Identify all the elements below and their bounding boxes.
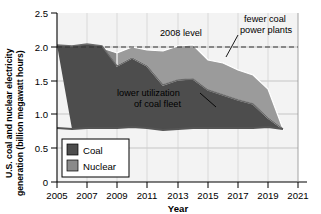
chart-figure: 2.5 2.0 1.5 1.0 0.5 0 2005 2007 2009 201… [0, 0, 321, 214]
area-chart: 2.5 2.0 1.5 1.0 0.5 0 2005 2007 2009 201… [0, 0, 321, 214]
legend: Coal Nuclear [62, 139, 129, 177]
y-axis-title-line2: generation (billion megawatt hours) [15, 50, 25, 196]
ytick-label-0-5: 0.5 [35, 143, 48, 154]
y-axis-ticks [51, 13, 57, 182]
annotation-lower-utilization-line2: of coal fleet [134, 99, 181, 109]
x-axis-ticks [57, 182, 298, 188]
xtick-label-2021: 2021 [287, 190, 308, 201]
annotation-2008-level: 2008 level [160, 28, 202, 38]
legend-swatch-coal[interactable] [67, 144, 78, 155]
ytick-label-1-0: 1.0 [35, 109, 48, 120]
xtick-label-2005: 2005 [46, 190, 67, 201]
legend-label-nuclear[interactable]: Nuclear [83, 161, 117, 172]
ytick-label-2-5: 2.5 [35, 8, 48, 19]
xtick-label-2011: 2011 [137, 190, 158, 201]
y-axis-title-line1: U.S. coal and nuclear electricity [4, 48, 14, 178]
x-axis-tick-labels: 2005 2007 2009 2011 2013 2015 2017 2019 … [46, 190, 308, 201]
legend-label-coal[interactable]: Coal [83, 145, 103, 156]
xtick-label-2015: 2015 [197, 190, 218, 201]
x-axis-title: Year [168, 203, 189, 214]
legend-swatch-nuclear[interactable] [67, 160, 78, 171]
xtick-label-2019: 2019 [257, 190, 278, 201]
annotation-lower-utilization-line1: lower utilization [117, 88, 180, 98]
ytick-label-2-0: 2.0 [35, 42, 48, 53]
annotation-fewer-coal-power-plants-line2: power plants [240, 25, 292, 35]
xtick-label-2007: 2007 [76, 190, 97, 201]
xtick-label-2009: 2009 [106, 190, 127, 201]
ytick-label-0: 0 [43, 177, 48, 188]
xtick-label-2017: 2017 [227, 190, 248, 201]
y-axis-tick-labels: 2.5 2.0 1.5 1.0 0.5 0 [35, 8, 48, 188]
annotation-fewer-coal-power-plants-line1: fewer coal [244, 14, 286, 24]
xtick-label-2013: 2013 [167, 190, 188, 201]
ytick-label-1-5: 1.5 [35, 76, 48, 87]
